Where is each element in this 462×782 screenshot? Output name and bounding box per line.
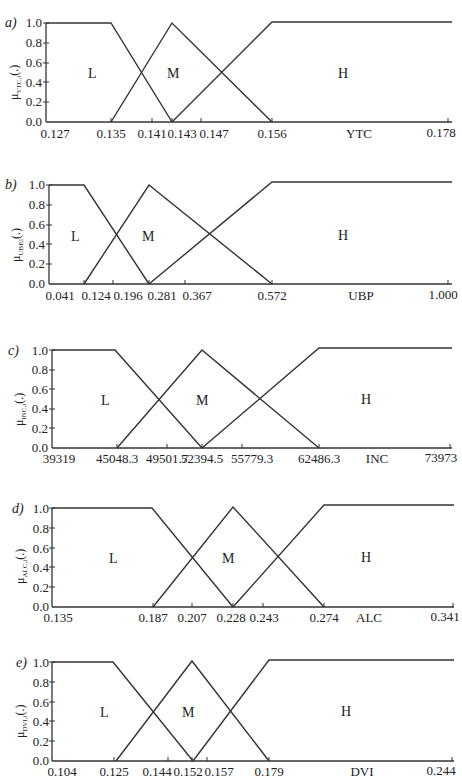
y-tick: 0.8 (32, 362, 48, 377)
membership-H (202, 348, 452, 448)
x-tick: 0.179 (254, 764, 283, 779)
set-label-L: L (71, 229, 80, 244)
x-tick: 0.196 (113, 288, 143, 303)
x-tick: 0.243 (249, 610, 278, 625)
membership-L (52, 508, 233, 607)
set-label-M: M (182, 705, 195, 720)
set-label-H: H (361, 550, 371, 565)
set-label-L: L (100, 705, 109, 720)
y-tick: 0.2 (29, 256, 45, 271)
y-tick: 0.4 (32, 401, 49, 416)
y-tick: 0.2 (32, 421, 48, 436)
set-label-M: M (222, 551, 235, 566)
chart-panel-e: e) 1.0 0.8 0.6 0.4 0.2 0.0 μDVI,i(.) L M… (0, 0, 462, 160)
y-tick: 0.4 (29, 237, 46, 252)
x-axis-label: ALC (356, 610, 382, 625)
membership-M (117, 350, 319, 448)
y-axis-label: μALC,i(.) (13, 549, 29, 584)
membership-H (193, 660, 454, 761)
x-tick: 0.572 (257, 288, 286, 303)
set-label-L: L (101, 393, 110, 408)
x-tick: 1.000 (428, 287, 457, 302)
set-label-M: M (142, 229, 155, 244)
x-tick: 0.274 (309, 610, 339, 625)
y-tick: 0.0 (29, 276, 45, 291)
x-tick: 0.341 (430, 609, 459, 624)
panel-label: e) (16, 655, 27, 671)
x-tick: 55779.3 (231, 451, 273, 466)
x-tick: 0.144 (142, 764, 172, 779)
x-tick: 0.281 (147, 288, 176, 303)
y-axis-label: μINC,i(.) (12, 393, 28, 426)
x-tick: 0.104 (47, 764, 77, 779)
membership-M (84, 185, 272, 284)
y-tick: 1.0 (33, 655, 49, 670)
set-label-H: H (338, 228, 348, 243)
x-tick: 0.125 (99, 764, 128, 779)
y-tick: 0.4 (33, 560, 50, 575)
y-tick: 0.8 (33, 521, 49, 536)
x-tick: 45048.3 (96, 451, 138, 466)
x-tick: 0.135 (43, 610, 72, 625)
x-tick: 39319 (43, 451, 76, 466)
y-tick: 0.8 (33, 675, 49, 690)
membership-M (153, 507, 324, 607)
x-tick: 62486.3 (298, 451, 340, 466)
y-tick: 1.0 (32, 343, 48, 358)
membership-H (233, 505, 454, 607)
x-axis-label: UBP (348, 288, 373, 303)
panel-label: d) (12, 501, 24, 517)
x-tick: 73973 (425, 450, 458, 465)
x-tick: 0.152 (173, 764, 202, 779)
y-tick: 0.6 (33, 541, 50, 556)
membership-L (49, 185, 149, 284)
x-tick: 0.187 (138, 610, 168, 625)
y-tick: 0.6 (32, 382, 49, 397)
membership-L (52, 662, 193, 761)
set-label-L: L (109, 551, 118, 566)
y-tick: 0.8 (29, 197, 45, 212)
x-axis-label: DVI (350, 764, 373, 779)
y-tick: 1.0 (29, 177, 45, 192)
membership-H (149, 182, 452, 284)
membership-L (52, 350, 202, 448)
y-tick: 0.6 (33, 695, 50, 710)
y-axis-label: μDVI,i(.) (13, 704, 29, 738)
x-tick: 0.207 (177, 610, 207, 625)
set-label-H: H (341, 704, 351, 719)
x-tick: 0.124 (81, 288, 111, 303)
x-tick: 0.228 (216, 610, 245, 625)
y-tick: 0.2 (33, 734, 49, 749)
y-tick: 0.2 (33, 580, 49, 595)
panel-label: c) (8, 343, 19, 359)
x-tick: 0.157 (204, 764, 234, 779)
x-tick: 0.041 (45, 288, 74, 303)
x-tick: 0.367 (182, 288, 212, 303)
y-tick: 1.0 (33, 501, 49, 516)
y-tick: 0.4 (33, 714, 50, 729)
y-tick: 0.6 (29, 217, 46, 232)
x-tick: 52394.5 (181, 451, 223, 466)
y-axis-label: μUBP,i(.) (9, 228, 25, 262)
x-axis-label: INC (366, 451, 388, 466)
x-tick: 0.244 (426, 763, 456, 778)
set-label-M: M (196, 393, 209, 408)
set-label-H: H (361, 392, 371, 407)
panel-label: b) (5, 177, 17, 193)
